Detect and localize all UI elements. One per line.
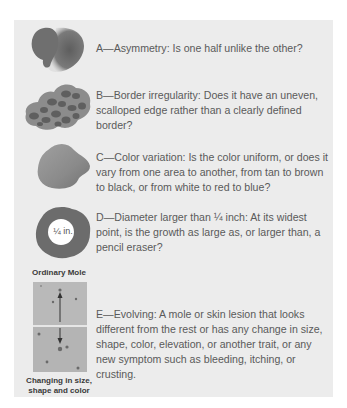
- changing-mole-caption: Changing in size, shape and color: [20, 376, 98, 396]
- color-variation-mole-icon: [34, 140, 92, 192]
- asymmetric-mole-icon: [26, 22, 88, 74]
- ordinary-mole-caption: Ordinary Mole: [27, 268, 91, 278]
- diameter-badge: ¼ in.: [48, 226, 78, 236]
- criterion-d-text: D—Diameter larger than ¼ inch: At its wi…: [96, 210, 328, 255]
- criterion-b-text: B—Border irregularity: Does it have an u…: [96, 88, 328, 133]
- criterion-c-text: C—Color variation: Is the color uniform,…: [96, 150, 328, 195]
- criterion-a-text: A—Asymmetry: Is one half unlike the othe…: [96, 41, 328, 56]
- evolving-mole-photo: [33, 282, 87, 372]
- irregular-border-mole-icon: [22, 80, 94, 132]
- criterion-e-text: E—Evolving: A mole or skin lesion that l…: [96, 307, 328, 382]
